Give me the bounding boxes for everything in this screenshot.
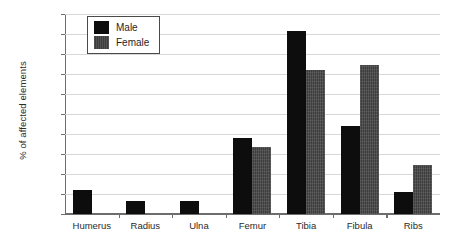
legend-item-male: Male — [94, 21, 149, 34]
bar-fibula-male — [341, 126, 360, 214]
chart-legend: Male Female — [87, 16, 160, 54]
bar-femur-female — [252, 147, 271, 215]
xtick-mark-5 — [333, 214, 334, 218]
legend-label-female: Female — [116, 37, 149, 48]
bar-ribs-female — [413, 165, 432, 214]
xtick-mark-4 — [279, 214, 280, 218]
plot-area: 02468101214161820 HumerusRadiusUlnaFemur… — [65, 14, 440, 214]
category-group-femur — [226, 14, 280, 214]
category-group-tibia — [279, 14, 333, 214]
bar-ribs-male — [394, 192, 413, 214]
legend-item-female: Female — [94, 36, 149, 49]
legend-swatch-female-icon — [94, 36, 109, 49]
xtick-mark-2 — [172, 214, 173, 218]
bar-tibia-female — [306, 70, 325, 214]
legend-label-male: Male — [116, 22, 138, 33]
legend-swatch-male-icon — [94, 21, 109, 34]
y-axis-title: % of affected elements — [17, 11, 28, 211]
category-group-ulna — [172, 14, 226, 214]
bar-tibia-male — [287, 31, 306, 214]
category-group-fibula — [333, 14, 387, 214]
gridline-0 — [65, 214, 440, 215]
ytick-mark-0 — [61, 214, 65, 215]
xtick-mark-3 — [226, 214, 227, 218]
xtick-mark-1 — [119, 214, 120, 218]
bar-femur-male — [233, 138, 252, 215]
bar-humerus-male — [73, 190, 92, 214]
bar-ulna-male — [180, 201, 199, 214]
category-group-ribs — [386, 14, 440, 214]
xtick-mark-6 — [386, 214, 387, 218]
bar-radius-male — [126, 201, 145, 214]
bar-fibula-female — [360, 65, 379, 214]
x-axis-label-ribs: Ribs — [368, 220, 458, 231]
bar-chart: % of affected elements 02468101214161820… — [0, 0, 466, 249]
